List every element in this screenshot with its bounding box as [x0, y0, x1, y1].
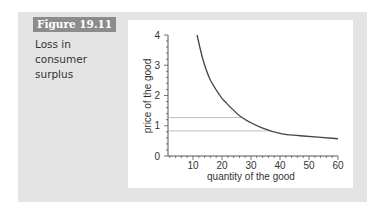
x-tick-label: 40	[274, 160, 286, 171]
x-axis-label: quantity of the good	[207, 171, 295, 182]
y-tick-label: 1	[154, 120, 160, 131]
x-tick-label: 60	[332, 160, 344, 171]
chart-svg: 01234102030405060 price of the good quan…	[0, 0, 378, 216]
demand-curve	[197, 35, 338, 139]
y-tick-label: 3	[154, 60, 160, 71]
chart-axes: 01234102030405060	[154, 30, 344, 172]
y-tick-label: 0	[154, 151, 160, 162]
y-tick-label: 4	[154, 30, 160, 41]
x-tick-label: 30	[245, 160, 257, 171]
x-tick-label: 10	[187, 160, 199, 171]
x-tick-label: 50	[303, 160, 315, 171]
y-tick-label: 2	[154, 90, 160, 101]
y-axis-label: price of the good	[142, 59, 153, 134]
x-tick-label: 20	[216, 160, 228, 171]
